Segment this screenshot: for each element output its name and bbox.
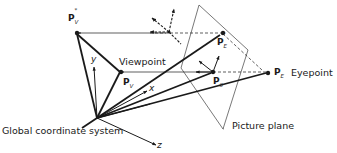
label-p0: P0 [213, 77, 223, 88]
label-pe: PE [274, 68, 284, 79]
pv-dot [119, 70, 123, 74]
aux-rays [97, 104, 150, 118]
pe-dot [266, 71, 270, 75]
pv-star-dot [75, 31, 79, 35]
label-x-axis: x [149, 84, 154, 93]
pvstar-pv-line [77, 34, 120, 72]
dashed-vectors [150, 9, 181, 44]
label-pv-star: PV* [68, 13, 77, 25]
points [75, 31, 270, 76]
pestar-pe-dashed [223, 34, 262, 70]
p0-dot [211, 70, 215, 74]
p0-vectors [196, 56, 219, 72]
label-picture-plane: Picture plane [232, 121, 294, 131]
dashed-node-dot [168, 31, 171, 34]
label-pe-star: PE* [217, 37, 226, 49]
label-viewpoint: Viewpoint [119, 57, 166, 67]
label-global-coordinate-system: Global coordinate system [2, 126, 123, 136]
label-pv: PV [123, 78, 133, 89]
label-eyepoint: Eyepoint [291, 68, 333, 78]
label-y-axis: y [91, 55, 96, 64]
label-z-axis: z [157, 141, 162, 150]
perspective-diagram: PV* PV P0 PE* PE Viewpoint Eyepoint Glob… [0, 0, 337, 153]
